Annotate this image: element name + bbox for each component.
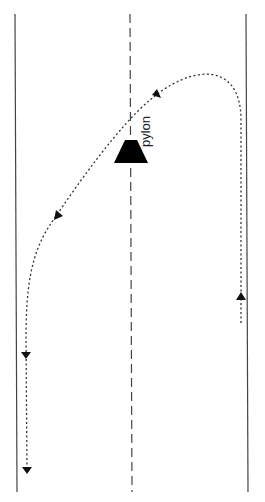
arrow-left-icon [152, 89, 161, 98]
arrow-down-icon [21, 352, 31, 359]
vehicle-path [26, 74, 241, 470]
road-diagram: pylon [0, 0, 265, 502]
arrow-up-icon [236, 292, 246, 300]
left-road-edge [15, 14, 17, 492]
center-dashed-line [130, 14, 132, 492]
arrow-down-icon [22, 467, 32, 474]
arrow-down-left-icon [54, 210, 63, 220]
pylon-label: pylon [138, 116, 153, 147]
right-road-edge [246, 14, 248, 492]
